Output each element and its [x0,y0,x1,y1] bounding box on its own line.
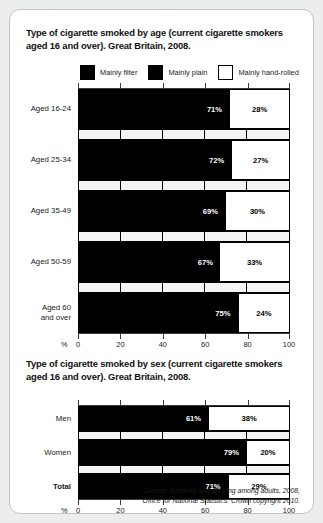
row-separator-band [78,129,290,140]
bar-row: Aged 60 and over 75%124% [78,293,290,333]
row-label-line: Total [53,482,71,491]
legend-swatch-icon [148,65,163,80]
axis-tick-label: 0 [76,340,80,349]
separator-cell [205,232,247,241]
legend-item-mainly-hand-rolled: Mainly hand-rolled [218,65,298,80]
separator-cell [79,283,121,292]
axis-tick [78,400,79,405]
row-separator-band [78,231,290,242]
axis-ticks-bottom [78,334,290,339]
bar-segment-value: 38% [209,414,289,423]
separator-cell [163,432,205,439]
bar-row-label: Women [44,448,71,458]
source-line: Office for National Statistics. Crown co… [143,496,300,505]
bar-segment-value: 67% [198,258,218,267]
row-label-line: Aged 16-24 [31,104,71,113]
bar-segment-mainly-filter: 79% [79,441,245,464]
bar-segment-mainly-hand-rolled: 38% [209,407,289,430]
axis-tick-label: 0 [76,506,80,514]
stacked-bar: 75%124% [78,293,290,333]
bar-segment-mainly-hand-rolled: 33% [220,243,289,281]
bar-row-label: Aged 50-59 [31,257,71,267]
legend-swatch-icon [218,65,233,80]
bar-segment-value: 61% [186,414,206,423]
bar-segment-mainly-hand-rolled: 20% [247,441,289,464]
legend-item-label: Mainly filter [100,68,137,77]
separator-cell [121,283,163,292]
axis-tick-label: 40 [159,506,167,514]
bar-segment-value: 20% [247,448,289,457]
row-separator-band [78,282,290,293]
bar-row-label: Men [56,414,71,424]
axis-tick-label: 40 [159,340,167,349]
row-label-line: Aged 25-34 [31,155,71,164]
separator-cell [79,232,121,241]
separator-cell [247,181,289,190]
bar-segment-mainly-filter: 71% [79,90,228,128]
separator-cell [205,432,247,439]
bar-segment-value: 28% [230,105,289,114]
legend-item-mainly-filter: Mainly filter [80,65,137,80]
stacked-bar: 61%38% [78,406,290,431]
axis-tick [289,83,290,88]
axis-tick [248,334,249,339]
axis-tick [248,83,249,88]
stacked-bar: 79%120% [78,440,290,465]
bar-segment-value: 30% [226,207,289,216]
bar-row-label: Aged 16-24 [31,104,71,114]
row-separator-band [78,180,290,191]
separator-cell [247,466,289,473]
separator-cell [163,283,205,292]
separator-cell [247,232,289,241]
row-label-line: Aged 35-49 [31,206,71,215]
source-line: Source: Smoking and drinking among adult… [143,486,300,495]
bar-row: Aged 25-34 72%127% [78,140,290,180]
axis-tick [289,400,290,405]
stacked-bar: 67%33% [78,242,290,282]
axis-tick-label: 20 [116,340,124,349]
axis-unit-label: % [61,340,68,349]
bar-segment-mainly-hand-rolled: 28% [230,90,289,128]
bar-segment-mainly-filter: 75% [79,294,237,332]
axis-tick [163,83,164,88]
bar-segment-mainly-hand-rolled: 30% [226,192,289,230]
separator-cell [79,130,121,139]
bar-row: Aged 50-59 67%33% [78,242,290,282]
source-note: Source: Smoking and drinking among adult… [143,486,300,505]
axis-unit-label: % [61,506,68,514]
axis-tick-label: 80 [243,340,251,349]
axis-tick-label: 100 [283,340,295,349]
bar-segment-value: 75% [215,309,235,318]
bar-row: Women 79%120% [78,440,290,465]
separator-cell [163,466,205,473]
bar-row: Aged 16-24 71%128% [78,89,290,129]
bar-row-label: Total [53,482,71,492]
bar-segment-mainly-filter: 61% [79,407,207,430]
separator-cell [121,466,163,473]
axis-tick [78,334,79,339]
bar-segment-mainly-hand-rolled: 24% [239,294,289,332]
legend-item-label: Mainly hand-rolled [238,68,298,77]
separator-cell [121,130,163,139]
row-label-line: Aged 50-59 [31,257,71,266]
bar-segment-value: 69% [203,207,223,216]
axis-tick-label: 80 [243,506,251,514]
axis-tick-label: 20 [116,506,124,514]
legend-item-mainly-plain: Mainly plain [148,65,207,80]
separator-cell [79,466,121,473]
axis-tick [78,83,79,88]
axis-tick-label: 60 [201,340,209,349]
bar-segment-mainly-hand-rolled: 27% [232,141,289,179]
bar-segment-mainly-filter: 67% [79,243,219,281]
axis-tick [120,500,121,505]
axis-tick [120,83,121,88]
stacked-bar: 72%127% [78,140,290,180]
axis-tick [120,400,121,405]
legend-item-label: Mainly plain [168,68,207,77]
bar-row-label: Aged 35-49 [31,206,71,216]
separator-cell [121,232,163,241]
row-label-line: Aged 60 [42,303,71,312]
axis-tick [205,334,206,339]
separator-cell [205,466,247,473]
row-separator-band [78,431,290,440]
